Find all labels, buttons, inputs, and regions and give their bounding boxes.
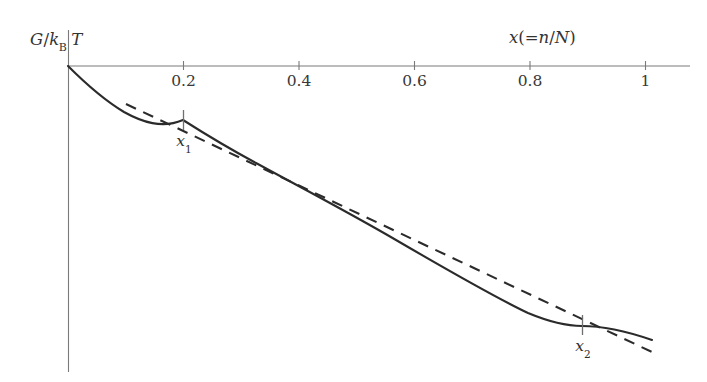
annotation-x2-symbol: x: [575, 337, 584, 355]
x-tick-label-0.2: 0.2: [171, 74, 196, 90]
y-axis-label-k: k: [49, 30, 59, 49]
y-axis-label-g: G: [30, 30, 43, 49]
annotation-x1: x1: [176, 134, 191, 152]
y-axis-label: G/kB T: [30, 32, 82, 51]
x-tick-label-0.4: 0.4: [287, 74, 312, 90]
free-energy-curve: [68, 66, 652, 340]
x-tick-label-0.8: 0.8: [518, 74, 543, 90]
annotation-x2: x2: [575, 339, 590, 357]
x-axis-label-numerator: n: [539, 28, 550, 47]
annotation-x1-subscript: 1: [185, 143, 192, 155]
y-axis-label-t: T: [71, 30, 82, 49]
x-axis-label-equals: =: [525, 28, 539, 47]
annotation-x1-symbol: x: [176, 132, 185, 150]
y-axis-label-subscript-b: B: [59, 41, 67, 54]
common-tangent-dashed-line: [126, 104, 652, 352]
annotation-x2-subscript: 2: [584, 348, 591, 360]
x-axis-label-denominator: N: [555, 28, 569, 47]
x-axis-label-close-paren: ): [569, 28, 575, 47]
x-axis-label-var: x: [509, 28, 518, 47]
chart-plot-area: [0, 0, 707, 382]
x-tick-label-1: 1: [641, 74, 651, 90]
x-axis-label: x(=n/N): [509, 30, 576, 47]
free-energy-chart-figure: G/kB T x(=n/N) 0.2 0.4 0.6 0.8 1 x1 x2: [0, 0, 707, 382]
x-tick-label-0.6: 0.6: [402, 74, 427, 90]
